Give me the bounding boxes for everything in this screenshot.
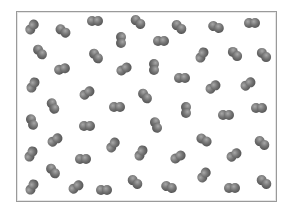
atom-sphere [116, 38, 126, 48]
atom-sphere [250, 18, 260, 28]
diatomic-molecule [96, 185, 112, 195]
diatomic-molecule [149, 59, 159, 75]
diatomic-molecule [224, 183, 240, 193]
atom-sphere [93, 16, 103, 26]
atom-sphere [224, 110, 234, 120]
diatomic-molecule [79, 121, 95, 131]
atom-sphere [181, 108, 191, 118]
atom-sphere [149, 65, 159, 75]
atom-sphere [102, 185, 112, 195]
diatomic-molecule [244, 18, 260, 28]
diatomic-molecule [218, 110, 234, 120]
atom-sphere [180, 73, 190, 83]
diatomic-molecule [181, 102, 191, 118]
atom-sphere [230, 183, 240, 193]
diatomic-molecule [116, 32, 126, 48]
atom-sphere [257, 103, 267, 113]
atom-sphere [115, 102, 125, 112]
diatomic-molecule [174, 73, 190, 83]
diatomic-molecule [87, 16, 103, 26]
atom-sphere [81, 154, 91, 164]
diatomic-molecule [153, 36, 169, 46]
diatomic-molecule [251, 103, 267, 113]
atom-sphere [159, 36, 169, 46]
diatomic-molecule [109, 102, 125, 112]
diatomic-molecule [75, 154, 91, 164]
atom-sphere [85, 121, 95, 131]
